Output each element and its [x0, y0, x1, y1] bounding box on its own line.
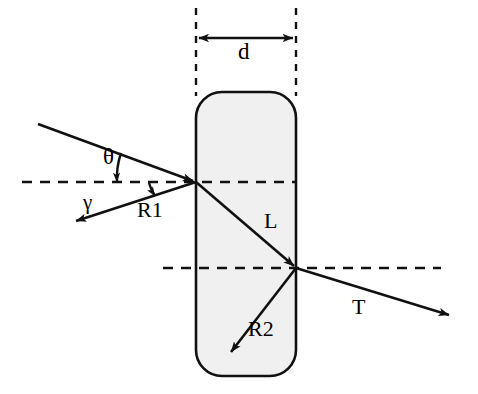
incident-ray — [38, 124, 193, 181]
reflection-angle-label: γ — [83, 192, 92, 213]
transmitted-ray-t — [296, 268, 449, 315]
gamma-angle-arc — [149, 183, 155, 196]
theta-angle-arc — [117, 153, 121, 182]
reflected-ray-r1 — [76, 182, 196, 221]
r2-label: R2 — [248, 318, 274, 340]
thickness-label: d — [238, 40, 250, 63]
l-label: L — [264, 210, 277, 232]
t-label: T — [352, 296, 365, 318]
r1-label: R1 — [137, 199, 163, 221]
optics-diagram: d θ γ R1 L R2 T — [0, 0, 478, 394]
incidence-angle-label: θ — [103, 145, 114, 168]
